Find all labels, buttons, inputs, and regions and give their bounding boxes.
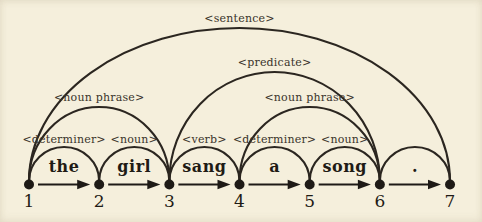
node-dot-1 <box>24 180 34 190</box>
arc-label-1-7: <sentence> <box>204 12 274 25</box>
arc-label-3-6: <predicate> <box>238 56 312 69</box>
node-number-2: 2 <box>94 191 105 211</box>
node-dot-3 <box>164 180 174 190</box>
arc-label-1-3: <noun phrase> <box>54 91 145 104</box>
node-dot-2 <box>94 180 104 190</box>
arrowhead-icon <box>288 180 301 189</box>
node-dot-7 <box>445 180 455 190</box>
arc-label-2-3: <noun> <box>110 133 158 146</box>
word-4: song <box>323 157 368 176</box>
scanned-page: <determiner><noun><noun phrase><verb><de… <box>0 0 482 222</box>
parse-diagram: <determiner><noun><noun phrase><verb><de… <box>0 0 482 222</box>
arc-1-7 <box>29 28 450 181</box>
arcs-layer <box>29 28 450 181</box>
word-2: sang <box>182 157 226 176</box>
node-number-6: 6 <box>374 191 385 211</box>
arc-label-4-5: <determiner> <box>233 133 316 146</box>
arrowhead-icon <box>218 180 231 189</box>
arc-label-5-6: <noun> <box>321 133 369 146</box>
arrowhead-icon <box>147 180 160 189</box>
arc-label-4-6: <noun phrase> <box>264 91 355 104</box>
arrowhead-icon <box>358 180 371 189</box>
node-number-1: 1 <box>24 191 35 211</box>
arrowhead-icon <box>77 180 90 189</box>
word-5: . <box>412 157 418 176</box>
word-0: the <box>49 157 80 176</box>
node-number-5: 5 <box>304 191 315 211</box>
word-1: girl <box>117 157 151 176</box>
node-dot-6 <box>375 180 385 190</box>
node-number-7: 7 <box>445 191 456 211</box>
node-dot-4 <box>235 180 245 190</box>
node-number-4: 4 <box>234 191 245 211</box>
arc-label-1-2: <determiner> <box>22 133 105 146</box>
arrowhead-icon <box>428 180 441 189</box>
word-3: a <box>269 157 280 176</box>
node-dot-5 <box>305 180 315 190</box>
node-number-3: 3 <box>164 191 175 211</box>
arc-label-3-4: <verb> <box>182 133 227 146</box>
